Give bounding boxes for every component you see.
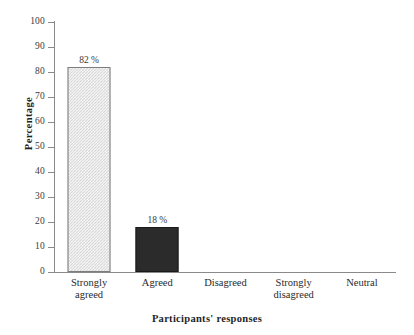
y-axis-tick-label: 90 [0,42,45,52]
y-axis-tick [48,222,55,223]
y-axis-tick [48,172,55,173]
y-axis-tick [48,197,55,198]
y-axis-tick [48,47,55,48]
y-axis-tick [48,272,55,273]
y-axis-tick-label-text: 100 [3,17,45,27]
x-axis-labels: Strongly agreedAgreedDisagreedStrongly d… [55,277,396,307]
bar-group [260,22,328,272]
y-axis-tick-label: 20 [0,217,45,227]
x-axis-category-label: Strongly agreed [55,277,123,301]
y-axis-tick-label: 0 [0,267,45,277]
bar-value-label: 82 % [79,55,99,65]
y-axis-tick [48,97,55,98]
bar-value-label: 18 % [147,215,167,225]
x-axis-category-label: Strongly disagreed [260,277,328,301]
y-axis-tick [48,247,55,248]
y-axis-tick-label: 10 [0,242,45,252]
y-axis-tick [48,147,55,148]
y-axis-tick [48,122,55,123]
x-axis-category-label: Disagreed [191,277,259,289]
x-axis-line [55,272,396,273]
y-axis-tick-label-text: 20 [3,217,45,227]
bars-layer: 82 %18 % [55,22,396,272]
y-axis-tick-label: 30 [0,192,45,202]
bar[interactable]: 82 % [68,67,111,272]
bar-group [191,22,259,272]
y-axis-tick-label-text: 30 [3,192,45,202]
x-axis-category-label: Neutral [328,277,396,289]
bar-group [328,22,396,272]
y-axis-tick-label-text: 10 [3,242,45,252]
bar-chart: 0102030405060708090100 Percentage 82 %18… [0,0,414,335]
bar-group: 82 % [55,22,123,272]
x-axis-category-label: Agreed [123,277,191,289]
bar[interactable]: 18 % [136,227,179,272]
x-axis-title: Participants' responses [0,313,414,324]
y-axis-tick [48,72,55,73]
y-axis-tick-label-text: 0 [3,267,45,277]
y-axis-tick-label-text: 90 [3,42,45,52]
y-axis-tick [48,22,55,23]
y-axis-tick-label: 100 [0,17,45,27]
y-axis-title: Percentage [23,64,34,184]
bar-group: 18 % [123,22,191,272]
